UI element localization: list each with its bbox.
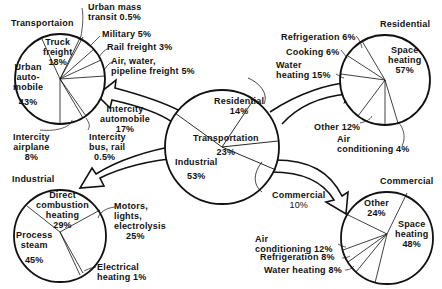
transportation-truck-freight-label: Truckfreight18% <box>43 37 72 67</box>
commercial-water-heating-label: Water heating 8% <box>264 265 342 275</box>
commercial-other-label: Other24% <box>364 198 389 218</box>
residential-other-label: Other 12% <box>314 122 360 132</box>
center-transportation-label: Transportation23% <box>193 133 259 157</box>
center-residential-label: Residential14% <box>214 96 264 116</box>
residential-refrigeration-label: Refrigeration 6% <box>281 32 356 42</box>
transportation-military-label: Military 5% <box>102 29 151 39</box>
transportation-intercity-bus-rail-label: Intercitybus, rail0.5% <box>89 132 126 162</box>
transportation-rail-freight-label: Rail freight 3% <box>107 42 173 52</box>
commercial-air-conditioning-label: Airconditioning 12% <box>255 234 333 254</box>
transportation-urban-automobile-label: Urbanauto-mobile43% <box>13 62 43 107</box>
center-commercial-label: Commercial10% <box>272 190 326 210</box>
industrial-motors-lights-label: Motors,lights,electrolysis25% <box>114 201 166 241</box>
industrial-title: Industrial <box>12 174 55 184</box>
residential-air-conditioning-label: Airconditioning 4% <box>337 134 410 154</box>
residential-cooking-label: Cooking 6% <box>286 47 340 57</box>
transportation-intercity-automobile-label: Intercityautomobile17% <box>100 104 150 134</box>
commercial-space-heating-label: Spaceheating48% <box>395 219 428 249</box>
industrial-electrical-heating-label: Electricalheating 1% <box>97 262 147 282</box>
industrial-process-steam-label: Processsteam45% <box>16 230 52 265</box>
residential-space-heating-label: Spaceheating57% <box>388 45 421 75</box>
industrial-direct-combustion-label: Directcombustionheating29% <box>36 190 89 230</box>
center-industrial-label: Industrial53% <box>175 157 218 181</box>
residential-title: Residential <box>380 19 430 29</box>
residential-water-heating-label: Waterheating 15% <box>276 60 331 80</box>
transportation-title: Transportaion <box>11 18 74 28</box>
transportation-air-water-pipeline-label: Air, water,pipeline freight 5% <box>111 56 195 76</box>
commercial-title: Commercial <box>380 176 434 186</box>
commercial-refrigeration-label: Refrigeration 8% <box>260 252 335 262</box>
transportation-intercity-airplane-label: Intercityairplane8% <box>13 132 50 162</box>
transportation-urban-mass-transit-label: Urban masstransit 0.5% <box>88 2 142 22</box>
